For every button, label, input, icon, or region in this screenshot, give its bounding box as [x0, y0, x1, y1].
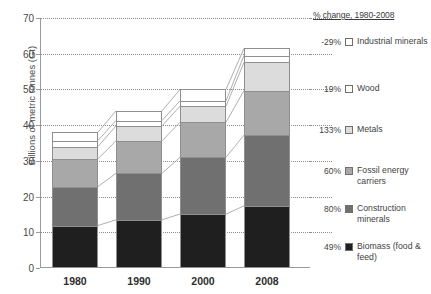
legend-title: % change, 1980-2008: [313, 10, 427, 20]
legend-pct-change: 19%: [313, 83, 341, 94]
bar-segment[interactable]: [116, 173, 162, 219]
y-tick-mark: [36, 125, 40, 126]
bar-segment[interactable]: [244, 206, 290, 268]
bar-2008[interactable]: [244, 48, 290, 268]
legend-pct-change: 49%: [313, 241, 341, 252]
y-tick-label: 70: [23, 13, 34, 24]
legend-item[interactable]: -29%Industrial minerals: [313, 36, 431, 47]
y-tick-mark: [36, 232, 40, 233]
y-tick-mark: [36, 18, 40, 19]
legend-label: Industrial minerals: [357, 36, 431, 47]
bar-1990[interactable]: [116, 111, 162, 268]
bar-segment[interactable]: [116, 111, 162, 121]
legend-swatch: [345, 126, 353, 134]
legend: % change, 1980-2008 -29%Industrial miner…: [313, 10, 427, 20]
legend-label: Biomass (food & feed): [357, 241, 431, 262]
gridline-extension: [310, 232, 332, 233]
bar-segment[interactable]: [244, 56, 290, 63]
bar-segment[interactable]: [180, 89, 226, 100]
legend-pct-change: 60%: [313, 165, 341, 176]
legend-item[interactable]: 19%Wood: [313, 83, 431, 94]
bar-segment[interactable]: [180, 157, 226, 214]
x-tick-label: 2000: [180, 275, 226, 287]
bar-segment[interactable]: [244, 48, 290, 55]
y-tick-label: 20: [23, 191, 34, 202]
legend-label: Metals: [357, 124, 431, 135]
legend-swatch: [345, 85, 353, 93]
legend-swatch: [345, 205, 353, 213]
legend-swatch: [345, 38, 353, 46]
bar-segment[interactable]: [52, 187, 98, 226]
bar-segment[interactable]: [52, 159, 98, 187]
bar-segment[interactable]: [180, 106, 226, 122]
bar-segment[interactable]: [52, 132, 98, 140]
legend-label: Construction minerals: [357, 203, 431, 224]
legend-label: Wood: [357, 83, 431, 94]
y-tick-label: 40: [23, 120, 34, 131]
bar-segment[interactable]: [116, 126, 162, 141]
y-axis-line: [40, 18, 41, 268]
bar-segment[interactable]: [116, 220, 162, 268]
x-tick-label: 1990: [116, 275, 162, 287]
y-tick-label: 0: [28, 263, 34, 274]
legend-item[interactable]: 49%Biomass (food & feed): [313, 241, 431, 262]
gridline: [40, 18, 310, 19]
bar-segment[interactable]: [180, 214, 226, 268]
legend-item[interactable]: 133%Metals: [313, 124, 431, 135]
y-tick-label: 30: [23, 155, 34, 166]
bar-2000[interactable]: [180, 89, 226, 268]
y-tick-label: 50: [23, 84, 34, 95]
bar-segment[interactable]: [244, 91, 290, 136]
gridline-extension: [310, 54, 332, 55]
bar-segment[interactable]: [244, 135, 290, 206]
bar-1980[interactable]: [52, 132, 98, 268]
bar-segment[interactable]: [244, 62, 290, 90]
y-tick-label: 10: [23, 227, 34, 238]
legend-item[interactable]: 60%Fossil energy carriers: [313, 165, 431, 186]
y-tick-mark: [36, 89, 40, 90]
bar-segment[interactable]: [52, 226, 98, 269]
gridline-extension: [310, 161, 332, 162]
y-tick-mark: [36, 161, 40, 162]
y-tick-mark: [36, 54, 40, 55]
bar-segment[interactable]: [52, 147, 98, 159]
legend-item[interactable]: 80%Construction minerals: [313, 203, 431, 224]
legend-swatch: [345, 167, 353, 175]
bar-segment[interactable]: [116, 141, 162, 174]
x-tick-label: 2008: [244, 275, 290, 287]
gridline-extension: [310, 197, 332, 198]
legend-label: Fossil energy carriers: [357, 165, 431, 186]
plot-area: 010203040506070 1980199020002008: [40, 18, 310, 268]
bar-segment[interactable]: [180, 122, 226, 157]
legend-swatch: [345, 243, 353, 251]
legend-pct-change: -29%: [313, 36, 341, 47]
y-tick-mark: [36, 197, 40, 198]
legend-pct-change: 80%: [313, 203, 341, 214]
x-tick-label: 1980: [52, 275, 98, 287]
y-tick-mark: [36, 268, 40, 269]
legend-pct-change: 133%: [313, 124, 341, 135]
y-tick-label: 60: [23, 48, 34, 59]
